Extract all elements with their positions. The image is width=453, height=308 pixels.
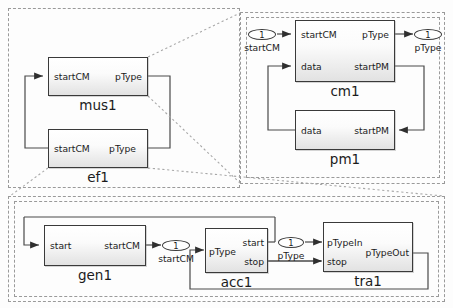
block-pm1-name: pm1 (295, 153, 395, 167)
tra1-out-port-1-label: pTypeOut (350, 248, 409, 257)
block-mus1-name: mus1 (48, 99, 148, 113)
pm1-in-port-1-label: data (301, 126, 322, 135)
mus1-out-port-label: pType (93, 72, 142, 81)
cm1-out-port-1-label: pType (340, 30, 389, 39)
pm1-out-port-1-label: startPM (336, 126, 389, 135)
gen1-in-port-label: start (50, 241, 71, 250)
gen-output-port-number[interactable]: 1 (162, 240, 190, 251)
ef1-in-port-label: startCM (54, 144, 90, 153)
gen1-out-port-label: startCM (84, 241, 140, 250)
tra1-in-port-1-label: pTypeIn (327, 238, 362, 247)
tra1-in-port-2-label: stop (327, 257, 347, 266)
block-cm1-name: cm1 (295, 85, 395, 99)
block-acc1-name: acc1 (200, 276, 273, 290)
ef1-out-port-label: pType (93, 144, 136, 153)
mus1-in-port-label: startCM (54, 72, 90, 81)
cm-input-port-number[interactable]: 1 (248, 29, 276, 40)
diagram-canvas: startCM pType mus1 startCM pType ef1 sta… (0, 0, 453, 308)
acc-output-port-number[interactable]: 1 (278, 237, 304, 248)
cm1-in-port-1-label: startCM (301, 30, 337, 39)
cm-input-port-label: startCM (236, 43, 288, 52)
cm-output-port-label: pType (404, 43, 452, 52)
cm1-out-port-2-label: startPM (336, 62, 389, 71)
block-ef1-name: ef1 (48, 171, 148, 185)
acc1-out-port-2-label: stop (222, 257, 264, 266)
acc-output-port-label: pType (267, 251, 315, 260)
gen-output-port-label: startCM (150, 254, 202, 263)
acc1-out-port-1-label: start (222, 238, 264, 247)
cm-output-port-number[interactable]: 1 (414, 29, 442, 40)
block-tra1-name: tra1 (323, 275, 413, 289)
block-gen1-name: gen1 (44, 269, 146, 283)
acc1-in-port-label: pType (209, 247, 236, 256)
cm1-in-port-2-label: data (301, 62, 322, 71)
